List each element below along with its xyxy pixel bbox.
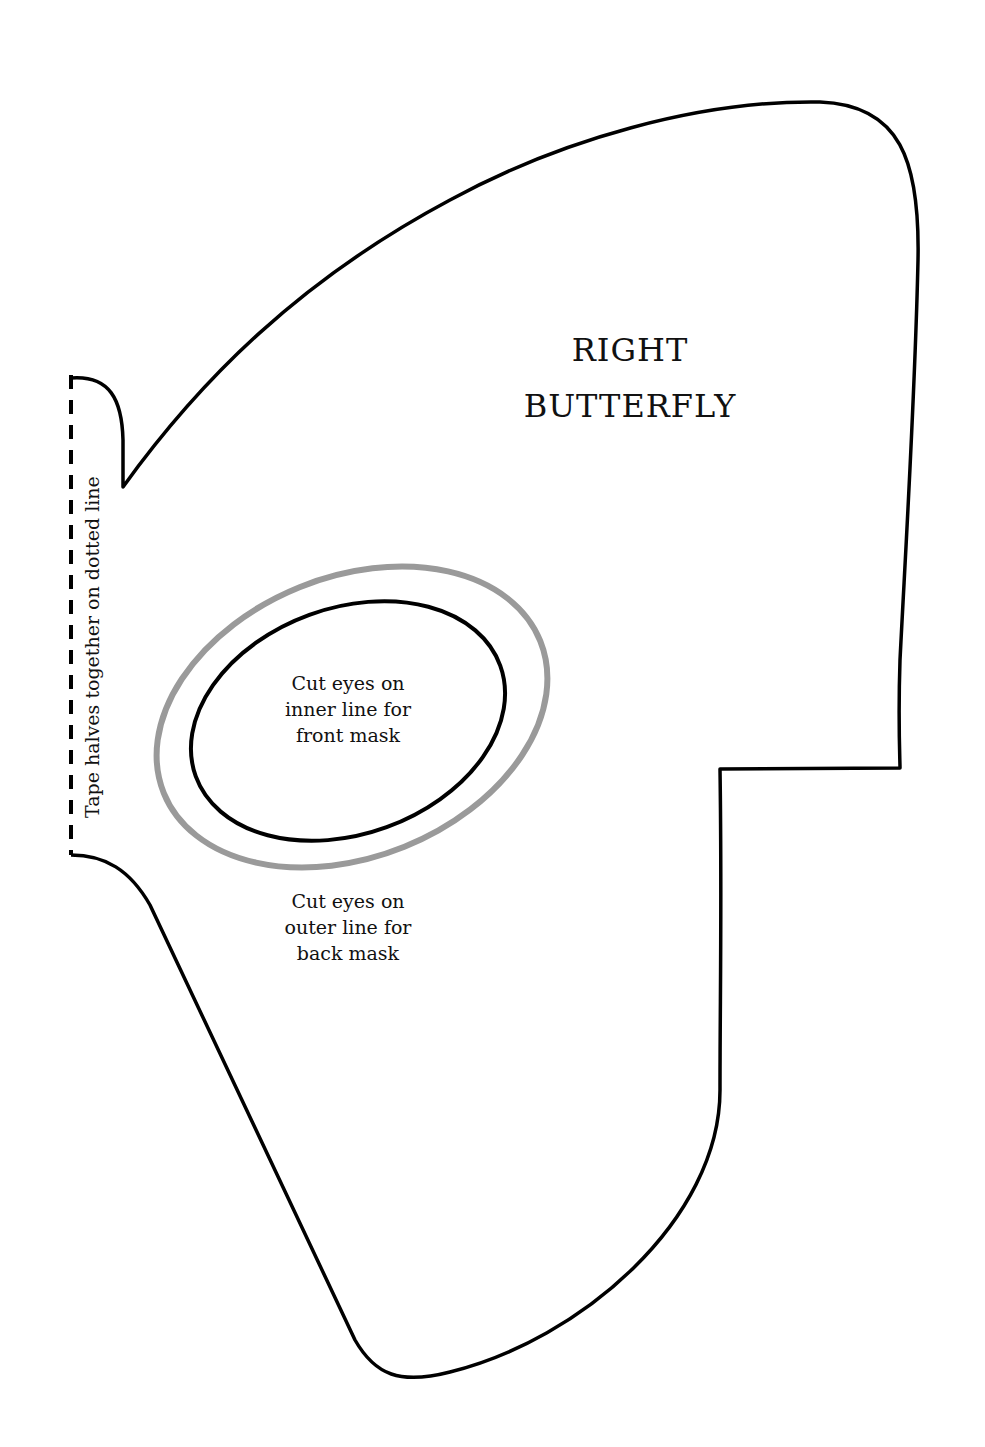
outer-eye-note-line-3: back mask — [248, 940, 448, 966]
inner-eye-note-line-3: front mask — [248, 722, 448, 748]
mask-outline-drawing — [0, 0, 985, 1447]
butterfly-mask-template: RIGHT BUTTERFLY Cut eyes on inner line f… — [0, 0, 985, 1447]
inner-eye-note-line-1: Cut eyes on — [248, 670, 448, 696]
outer-eye-note-line-1: Cut eyes on — [248, 888, 448, 914]
inner-eye-note-line-2: inner line for — [248, 696, 448, 722]
outer-eye-note: Cut eyes on outer line for back mask — [248, 888, 448, 966]
title-line-2: BUTTERFLY — [490, 378, 770, 434]
outer-eye-note-line-2: outer line for — [248, 914, 448, 940]
fold-instruction: Tape halves together on dotted line — [80, 476, 104, 818]
title-label: RIGHT BUTTERFLY — [490, 322, 770, 434]
inner-eye-note: Cut eyes on inner line for front mask — [248, 670, 448, 748]
title-line-1: RIGHT — [490, 322, 770, 378]
